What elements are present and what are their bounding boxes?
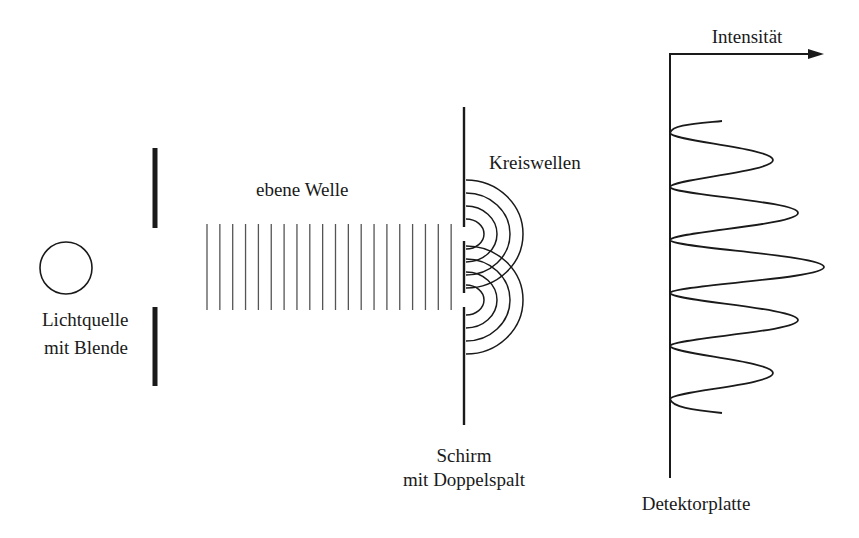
plane-wave-label: ebene Welle (256, 179, 349, 200)
circular-wave-arc (466, 193, 510, 275)
double-slit-label: mit Doppelspalt (403, 469, 526, 490)
circular-wave-fronts (466, 180, 523, 354)
light-source-label: Lichtquelle (42, 309, 129, 330)
interference-intensity-curve (670, 121, 824, 413)
detector-plate-axis (670, 49, 824, 478)
circular-wave-arc (466, 219, 484, 249)
intensity-axis-line (670, 54, 812, 478)
aperture-label: mit Blende (44, 337, 128, 358)
double-slit-diagram: Lichtquelle mit Blende ebene Welle Kreis… (0, 0, 859, 538)
circular-wave-arc (466, 259, 510, 341)
circular-wave-arc (466, 206, 497, 262)
detector-plate-label: Detektorplatte (642, 493, 751, 514)
light-source (40, 242, 92, 294)
circular-waves-label: Kreiswellen (489, 152, 581, 173)
intensity-axis-label: Intensität (712, 26, 783, 47)
circular-wave-arc (466, 285, 484, 315)
screen-label: Schirm (437, 445, 492, 466)
arrow-right-icon (808, 49, 824, 59)
light-source-circle-icon (40, 242, 92, 294)
plane-wave-fronts (207, 224, 451, 310)
circular-wave-arc (466, 272, 497, 328)
